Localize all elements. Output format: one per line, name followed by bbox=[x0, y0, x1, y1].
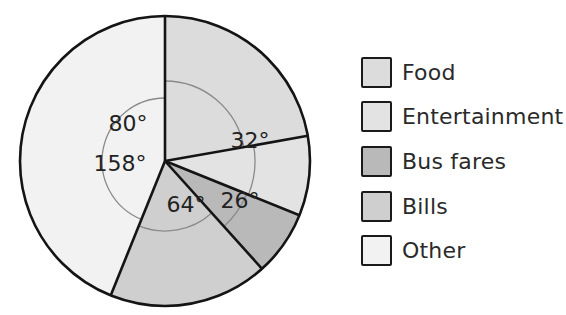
legend-label-bus-fares: Bus fares bbox=[402, 149, 506, 174]
angle-label-bus-fares: 26° bbox=[221, 188, 260, 213]
angle-label-entertainment: 32° bbox=[231, 128, 270, 153]
legend-label-entertainment: Entertainment bbox=[402, 104, 563, 129]
angle-label-food: 80° bbox=[109, 111, 148, 136]
legend-swatch-bills bbox=[361, 191, 392, 222]
legend-swatch-food bbox=[361, 57, 392, 88]
legend-item-bus-fares: Bus fares bbox=[361, 146, 506, 177]
legend-swatch-bus-fares bbox=[361, 146, 392, 177]
pie-chart: 80°32°26°64°158° bbox=[0, 0, 340, 315]
legend-label-other: Other bbox=[402, 238, 465, 263]
legend-item-food: Food bbox=[361, 57, 456, 88]
legend-item-entertainment: Entertainment bbox=[361, 101, 563, 132]
legend-label-food: Food bbox=[402, 60, 456, 85]
legend-item-bills: Bills bbox=[361, 191, 448, 222]
legend-item-other: Other bbox=[361, 235, 465, 266]
angle-label-bills: 64° bbox=[167, 192, 206, 217]
legend-label-bills: Bills bbox=[402, 194, 448, 219]
angle-label-other: 158° bbox=[94, 151, 147, 176]
legend-swatch-other bbox=[361, 235, 392, 266]
legend-swatch-entertainment bbox=[361, 101, 392, 132]
